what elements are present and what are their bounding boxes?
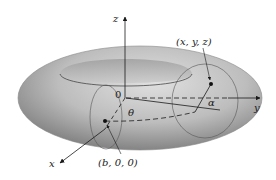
origin-label: 0 [115, 89, 121, 100]
surface-point-label: (x, y, z) [176, 36, 212, 47]
tube-center-label: (b, 0, 0) [98, 157, 138, 168]
torus-diagram: z y x 0 θ α (x, y, z) (b, 0, 0) [0, 0, 276, 180]
x-axis-label: x [49, 158, 55, 169]
z-axis-label: z [112, 13, 119, 24]
surface-point [209, 82, 213, 86]
tube-center-point [103, 119, 107, 123]
y-axis-label: y [253, 102, 260, 113]
theta-label: θ [128, 107, 134, 118]
alpha-label: α [208, 97, 215, 108]
